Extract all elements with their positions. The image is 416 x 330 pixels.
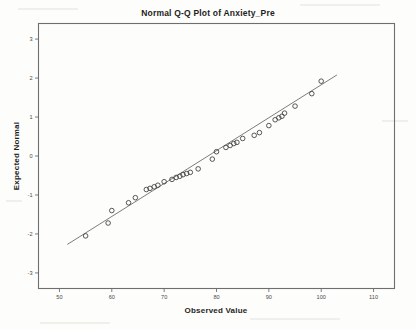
y-tick-label: 0 (29, 153, 32, 159)
x-axis-title: Observed Value (185, 306, 248, 315)
y-tick-label: -3 (28, 270, 33, 276)
plot-canvas: Normal Q-Q Plot of Anxiety_Pre 3210-1-2-… (0, 0, 416, 330)
x-tick-label: 60 (109, 294, 115, 300)
y-axis-title: Expected Normal (12, 122, 21, 190)
chart-title: Normal Q-Q Plot of Anxiety_Pre (141, 8, 275, 18)
y-tick-label: -2 (28, 231, 33, 237)
x-tick-label: 70 (161, 294, 167, 300)
figure-background (0, 0, 416, 330)
x-tick-label: 80 (213, 294, 219, 300)
x-tick-label: 90 (266, 294, 272, 300)
y-tick-label: 3 (29, 36, 32, 42)
x-tick-label: 50 (56, 294, 62, 300)
y-tick-label: 1 (29, 114, 32, 120)
x-tick-label: 100 (317, 294, 326, 300)
x-tick-label: 110 (369, 294, 378, 300)
y-tick-label: 2 (29, 75, 32, 81)
qq-plot-figure: Normal Q-Q Plot of Anxiety_Pre 3210-1-2-… (0, 0, 416, 330)
y-tick-label: -1 (28, 192, 33, 198)
